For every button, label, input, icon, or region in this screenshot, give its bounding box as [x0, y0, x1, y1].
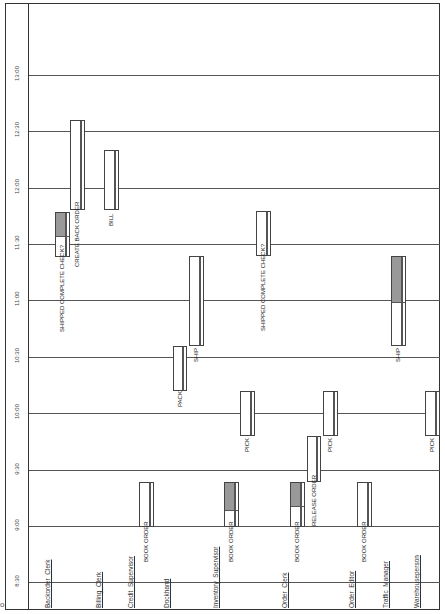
time-tick-label: 12:30 — [14, 123, 20, 137]
task-divider — [182, 347, 184, 390]
gridline — [29, 413, 440, 414]
task-divider — [300, 483, 302, 526]
task-bar[interactable] — [104, 150, 119, 210]
task-bar[interactable] — [173, 346, 187, 391]
time-tick-label: 13:00 — [14, 67, 20, 81]
time-tick-label: 8:30 — [14, 574, 20, 588]
task-divider — [80, 121, 82, 209]
task-label: PICK — [429, 438, 435, 452]
task-bar[interactable] — [391, 256, 406, 346]
lane-label: Backorder_Clerk — [44, 560, 51, 608]
corner-mark: o — [0, 600, 4, 609]
time-tick-label: 10:30 — [14, 349, 20, 363]
task-label: SHIP — [395, 348, 401, 362]
task-split-line — [291, 506, 304, 507]
gridline — [29, 300, 440, 301]
task-label: SHIP — [193, 348, 199, 362]
task-split-line — [56, 236, 69, 237]
gridline — [29, 131, 440, 132]
task-divider — [333, 392, 335, 435]
gridline — [29, 582, 440, 583]
task-divider — [250, 392, 252, 435]
task-divider — [65, 213, 67, 256]
task-label: RELEASE ORDER — [311, 475, 317, 526]
task-divider — [401, 257, 403, 345]
task-split-line — [225, 510, 238, 511]
gridline — [29, 244, 440, 245]
task-divider — [234, 483, 236, 526]
task-progress-shade — [56, 213, 65, 236]
task-bar[interactable] — [425, 391, 440, 436]
task-progress-shade — [291, 483, 300, 506]
task-split-line — [392, 302, 405, 303]
task-label: PICK — [244, 438, 250, 452]
task-divider — [199, 257, 201, 345]
task-bar[interactable] — [323, 391, 338, 436]
gridline — [29, 470, 440, 471]
time-tick-label: 9:30 — [14, 462, 20, 476]
task-label: CREATE BACK ORDER — [74, 201, 80, 266]
lane-label: Billing_Clerk — [95, 572, 102, 608]
lane-label: Credit_Supervisor — [127, 556, 134, 608]
task-label: BOOK ORDER — [361, 521, 367, 562]
task-label: PICK — [327, 438, 333, 452]
lane-label: Traffic_Manager — [382, 561, 389, 608]
task-label: SHIPPED COMPLETE CHECK? — [260, 244, 266, 331]
task-label: SHIPPED COMPLETE CHECK? — [59, 245, 65, 332]
task-bar[interactable] — [189, 256, 204, 346]
time-tick-label: 12:00 — [14, 180, 20, 194]
time-tick-label: 10:00 — [14, 405, 20, 419]
task-divider — [435, 392, 437, 435]
task-label: BOOK ORDER — [143, 521, 149, 562]
task-divider — [114, 151, 116, 209]
lane-label: Inventory_Supervisor — [212, 547, 219, 608]
gridline — [29, 188, 440, 189]
gridline — [29, 75, 440, 76]
task-progress-shade — [225, 483, 234, 510]
task-label: BOOK ORDER — [228, 521, 234, 562]
task-divider — [367, 483, 369, 526]
diagram-frame — [5, 3, 440, 610]
task-divider — [266, 212, 268, 255]
lane-label: Warehouseperson — [413, 555, 420, 608]
time-tick-label: 11:00 — [14, 292, 20, 306]
time-tick-label: 11:30 — [14, 236, 20, 250]
lane-label: Order_Clerk — [281, 573, 288, 608]
task-label: PACK — [177, 391, 183, 407]
task-bar[interactable] — [240, 391, 255, 436]
task-label: BILL — [108, 214, 114, 226]
lane-label: Dockhand — [163, 579, 170, 608]
task-divider — [149, 483, 151, 526]
time-tick-label: 9:00 — [14, 518, 20, 532]
task-progress-shade — [392, 257, 401, 302]
gridline — [29, 357, 440, 358]
task-bar[interactable] — [70, 120, 85, 210]
task-label: BOOK ORDER — [294, 521, 300, 562]
lane-label: Order_Editor — [348, 571, 355, 608]
